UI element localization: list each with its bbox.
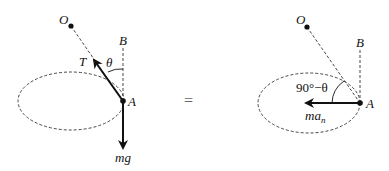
equals-sign: = <box>184 92 193 109</box>
right-label-b: B <box>356 35 364 50</box>
conical-pendulum-diagram: O B A T θ mg = O B A 90°−θ man <box>0 0 389 171</box>
label-theta: θ <box>106 55 113 70</box>
right-label-o: O <box>296 12 306 27</box>
left-figure: O B A T θ mg <box>18 12 136 165</box>
label-ma: ma <box>305 108 321 123</box>
left-label-o: O <box>59 12 69 27</box>
left-label-a: A <box>127 94 136 109</box>
left-pivot-dot <box>68 23 73 28</box>
label-subscript-n: n <box>321 115 326 125</box>
left-label-b: B <box>119 33 127 48</box>
right-angle-arc <box>332 81 344 103</box>
label-t: T <box>79 54 87 69</box>
label-mg: mg <box>115 150 131 165</box>
right-point-a-dot <box>357 100 363 106</box>
label-90-minus-theta: 90°−θ <box>296 80 328 95</box>
right-figure: O B A 90°−θ man <box>258 12 374 133</box>
left-point-a-dot <box>120 98 126 104</box>
right-label-a: A <box>365 96 374 111</box>
label-ma-n: man <box>305 108 326 125</box>
